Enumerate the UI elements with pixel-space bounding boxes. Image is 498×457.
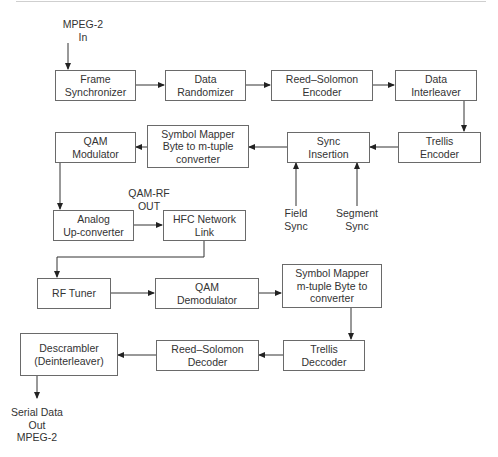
block-label: Trellis [426, 135, 454, 148]
block-label: QAM [195, 281, 219, 294]
block-label: Encoder [420, 148, 459, 161]
block-label: Synchronizer [65, 86, 126, 99]
qam-rf-out-label: QAM-RF OUT [124, 187, 174, 212]
block-label: Data [194, 73, 216, 86]
block-label: Deccoder [302, 356, 347, 369]
field-sync-label: Field Sync [276, 207, 316, 232]
frame-synchronizer-block: Frame Synchronizer [55, 70, 136, 101]
analog-upconverter-block: Analog Up-converter [53, 210, 134, 241]
segment-sync-label: Segment Sync [332, 207, 382, 232]
data-interleaver-block: Data Interleaver [395, 70, 477, 101]
block-label: Up-converter [63, 226, 124, 239]
block-label: Link [195, 226, 214, 239]
field-sync-line1: Field [276, 207, 316, 220]
block-label: Insertion [308, 148, 348, 161]
block-label: RF Tuner [52, 287, 96, 300]
block-label: Modulator [72, 148, 119, 161]
segment-sync-line2: Sync [332, 220, 382, 233]
segment-sync-line1: Segment [332, 207, 382, 220]
trellis-decoder-block: Trellis Deccoder [283, 340, 365, 371]
block-label: Encoder [302, 86, 341, 99]
rf-tuner-block: RF Tuner [37, 278, 111, 309]
block-label: Demodulator [177, 294, 237, 307]
block-label: QAM [84, 135, 108, 148]
mpeg-in-line1: MPEG-2 [58, 18, 108, 31]
hfc-network-link-block: HFC Network Link [163, 210, 246, 241]
block-label: Trellis [310, 343, 338, 356]
descrambler-block: Descrambler (Deinterleaver) [20, 333, 118, 376]
block-label: Reed–Solomon [171, 343, 243, 356]
serial-out-line2: Out [7, 419, 67, 432]
trellis-encoder-block: Trellis Encoder [398, 132, 481, 163]
block-label: converter [176, 153, 220, 166]
block-label: m-tuple Byte to [297, 280, 368, 293]
qam-rf-out-line1: QAM-RF [124, 187, 174, 200]
block-label: Symbol Mapper [161, 128, 235, 141]
block-label: Descrambler [39, 342, 99, 355]
qam-demodulator-block: QAM Demodulator [155, 278, 259, 309]
block-label: Data [425, 73, 447, 86]
block-label: Sync [317, 135, 340, 148]
arrow-hfc-to-rftuner [57, 240, 204, 277]
field-sync-line2: Sync [276, 220, 316, 233]
serial-out-line3: MPEG-2 [7, 431, 67, 444]
block-label: Randomizer [177, 86, 234, 99]
serial-out-line1: Serial Data [7, 406, 67, 419]
mpeg-in-label: MPEG-2 In [58, 18, 108, 43]
qam-modulator-block: QAM Modulator [55, 132, 136, 163]
block-label: converter [310, 292, 354, 305]
block-label: Frame [80, 73, 110, 86]
reed-solomon-decoder-block: Reed–Solomon Decoder [156, 340, 259, 371]
mpeg-in-line2: In [58, 31, 108, 44]
block-label: Analog [77, 213, 110, 226]
data-randomizer-block: Data Randomizer [165, 70, 246, 101]
sync-insertion-block: Sync Insertion [287, 132, 370, 163]
symbol-mapper-tx-block: Symbol Mapper Byte to m-tuple converter [147, 125, 249, 168]
reed-solomon-encoder-block: Reed–Solomon Encoder [271, 70, 373, 101]
block-label: Symbol Mapper [295, 267, 369, 280]
block-label: Byte to m-tuple [163, 140, 234, 153]
serial-data-out-label: Serial Data Out MPEG-2 [7, 406, 67, 444]
block-label: Reed–Solomon [286, 73, 358, 86]
symbol-mapper-rx-block: Symbol Mapper m-tuple Byte to converter [282, 264, 382, 308]
block-label: HFC Network [173, 213, 236, 226]
block-label: Decoder [188, 356, 228, 369]
block-label: Interleaver [411, 86, 461, 99]
block-label: (Deinterleaver) [34, 355, 103, 368]
